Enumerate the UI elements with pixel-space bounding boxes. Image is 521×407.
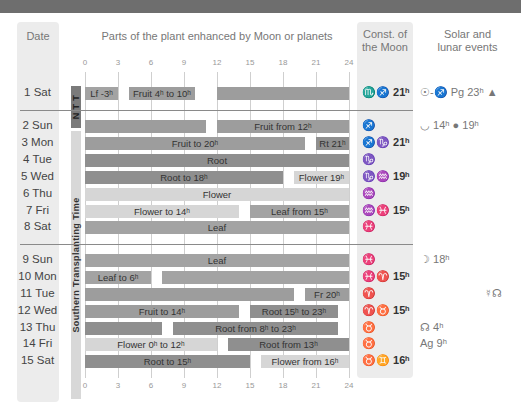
solar-lunar-event: ☉-♐ Pg 23ʰ ▲	[420, 86, 498, 99]
x-tick-label-top: 3	[108, 58, 128, 67]
x-tick-label-bottom: 24	[339, 381, 359, 390]
x-tick-label-top: 18	[273, 58, 293, 67]
moon-constellation: ♉	[362, 321, 412, 334]
fruit-bar: Fruit to 14ʰ	[85, 305, 239, 318]
flower-bar: Flower from 16ʰ	[261, 355, 349, 368]
zodiac-icon: ♓	[362, 253, 376, 265]
x-tick-label-bottom: 0	[75, 381, 95, 390]
root-bar: Root	[85, 154, 349, 167]
date-label: 3 Mon	[17, 136, 58, 148]
moon-constellation: ♐♑ 21ʰ	[362, 136, 412, 149]
moon-constellation: ♓	[362, 220, 412, 233]
moon-constellation: ♏♐ 21ʰ	[362, 86, 412, 99]
constellation-change-time: 21ʰ	[390, 86, 409, 98]
solar-lunar-event: ◡ 14ʰ ● 19ʰ	[420, 119, 479, 132]
zodiac-icon: ♉♊	[362, 354, 390, 366]
moon-constellation: ♑	[362, 153, 412, 166]
x-tick-label-top: 21	[306, 58, 326, 67]
fruit-bar: Fruit from 12ʰ	[217, 120, 349, 133]
gridline	[349, 72, 350, 378]
moon-constellation: ♉	[362, 337, 412, 350]
x-tick-label-top: 6	[141, 58, 161, 67]
date-label: 13 Thu	[17, 321, 58, 333]
root-bar: Root from 8ʰ to 23ʰ	[173, 322, 338, 335]
x-tick-label-bottom: 15	[240, 381, 260, 390]
x-tick-label-bottom: 6	[141, 381, 161, 390]
fruit-bar	[85, 120, 206, 133]
leaf-bar: Lf -3ʰ	[85, 87, 118, 100]
zodiac-icon: ♏♐	[362, 86, 390, 98]
zodiac-icon: ♓	[362, 220, 376, 232]
fruit-bar: Fruit 4ʰ to 10ʰ	[129, 87, 195, 100]
date-label: 12 Wed	[17, 304, 58, 316]
x-tick-label-bottom: 18	[273, 381, 293, 390]
moon-constellation: ♑♒ 19ʰ	[362, 170, 412, 183]
root-bar: Root to 15ʰ	[85, 355, 250, 368]
moon-constellation: ♉♊ 16ʰ	[362, 354, 412, 367]
const-header-line1: Const. of	[357, 28, 413, 41]
zodiac-icon: ♑♒	[362, 170, 390, 182]
divider-week2	[20, 244, 413, 245]
zodiac-icon: ♉	[362, 321, 376, 333]
zodiac-icon: ♐	[362, 119, 376, 131]
fruit-bar: Fruit to 20ʰ	[85, 137, 305, 150]
solar-lunar-event: Ag 9ʰ	[420, 337, 447, 349]
events-header-line1: Solar and	[420, 28, 515, 41]
root-bar: Root 15ʰ to 23ʰ	[250, 305, 338, 318]
moon-constellation: ♓♈ 15ʰ	[362, 270, 412, 283]
leaf-bar	[162, 271, 349, 284]
x-tick-label-top: 9	[174, 58, 194, 67]
date-label: 15 Sat	[17, 354, 58, 366]
zodiac-icon: ♓♈	[362, 270, 390, 282]
date-label: 11 Tue	[17, 287, 58, 299]
root-bar: Root to 18ʰ	[85, 171, 283, 184]
date-label: 9 Sun	[17, 253, 58, 265]
x-tick-label-bottom: 3	[108, 381, 128, 390]
fruit-bar	[85, 288, 294, 301]
zodiac-icon: ♒	[362, 187, 376, 199]
x-tick-label-bottom: 12	[207, 381, 227, 390]
root-bar: Rt 21ʰ	[316, 137, 349, 150]
zodiac-icon: ♒♓	[362, 204, 390, 216]
leaf-bar: Leaf from 15ʰ	[250, 205, 349, 218]
const-header-line2: the Moon	[357, 41, 413, 54]
date-label: 2 Sun	[17, 119, 58, 131]
constellation-change-time: 15ʰ	[390, 204, 409, 216]
moon-constellation: ♐	[362, 119, 412, 132]
date-label: 8 Sat	[17, 220, 58, 232]
const-header: Const. of the Moon	[357, 28, 413, 54]
x-tick-label-top: 15	[240, 58, 260, 67]
flower-bar: Flower to 14ʰ	[85, 205, 239, 218]
zodiac-icon: ♈♉	[362, 304, 390, 316]
date-label: 6 Thu	[17, 187, 58, 199]
zodiac-icon: ♈	[362, 287, 376, 299]
zodiac-icon: ♉	[362, 337, 376, 349]
southern-transplanting-label: Southern Transplanting Time	[71, 197, 81, 332]
x-tick-label-bottom: 21	[306, 381, 326, 390]
ntt-label: N T T	[71, 95, 81, 120]
constellation-change-time: 15ʰ	[390, 304, 409, 316]
constellation-change-time: 15ʰ	[390, 270, 409, 282]
divider-week1	[20, 110, 413, 111]
flower-bar: Flower	[85, 188, 349, 201]
chart-title: Parts of the plant enhanced by Moon or p…	[85, 30, 349, 43]
top-banner	[0, 0, 521, 13]
zodiac-icon: ♐♑	[362, 136, 390, 148]
x-tick-label-top: 0	[75, 58, 95, 67]
date-label: 5 Wed	[17, 170, 58, 182]
constellation-change-time: 16ʰ	[390, 354, 409, 366]
constellation-change-time: 19ʰ	[390, 170, 409, 182]
root-bar: Root from 13ʰ	[228, 338, 349, 351]
date-header: Date	[17, 30, 59, 43]
constellation-change-time: 21ʰ	[390, 136, 409, 148]
southern-transplanting-period: Southern Transplanting Time	[71, 131, 81, 399]
leaf-bar: Leaf to 6ʰ	[85, 271, 151, 284]
ntt-period: N T T	[71, 86, 81, 128]
moon-constellation: ♈	[362, 287, 412, 300]
solar-lunar-event: ☊ 4ʰ	[420, 321, 443, 334]
date-label: 10 Mon	[17, 270, 58, 282]
date-label: 1 Sat	[17, 86, 58, 98]
moon-constellation: ♒♓ 15ʰ	[362, 204, 412, 217]
events-header: Solar and lunar events	[420, 28, 515, 54]
date-label: 7 Fri	[17, 204, 58, 216]
